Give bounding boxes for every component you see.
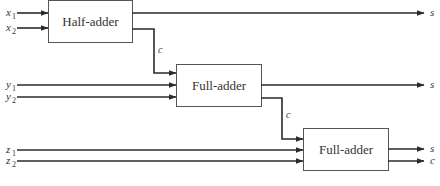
- full-adder-2-carry-output: c: [388, 154, 435, 166]
- full-adder-2-block: Full-adder: [304, 129, 389, 171]
- svg-text:2: 2: [12, 96, 16, 105]
- full-adder-2-label: Full-adder: [319, 142, 374, 157]
- carry-ha-to-fa1: c: [132, 29, 176, 73]
- input-x2: x 2: [5, 21, 48, 36]
- svg-text:s: s: [430, 6, 434, 18]
- svg-text:2: 2: [12, 27, 16, 36]
- svg-text:c: c: [158, 44, 163, 55]
- svg-text:y: y: [5, 90, 11, 102]
- svg-text:x: x: [5, 21, 11, 33]
- full-adder-1-label: Full-adder: [192, 78, 247, 93]
- svg-text:2: 2: [12, 160, 16, 169]
- half-adder-sum-output: s: [132, 6, 434, 18]
- input-y2: y 2: [5, 90, 176, 105]
- svg-text:z: z: [5, 154, 11, 166]
- svg-text:s: s: [430, 142, 434, 154]
- svg-text:y: y: [5, 78, 11, 90]
- svg-text:1: 1: [12, 149, 16, 158]
- svg-text:1: 1: [12, 84, 16, 93]
- input-y1: y 1: [5, 78, 176, 93]
- half-adder-block: Half-adder: [49, 1, 133, 43]
- half-adder-label: Half-adder: [62, 14, 119, 29]
- svg-text:c: c: [286, 109, 291, 120]
- full-adder-1-block: Full-adder: [177, 65, 262, 107]
- full-adder-1-sum-output: s: [261, 78, 434, 90]
- carry-fa1-to-fa2: c: [261, 98, 303, 139]
- full-adder-2-sum-output: s: [388, 142, 434, 154]
- svg-text:c: c: [430, 154, 435, 166]
- input-x1: x 1: [5, 6, 48, 21]
- svg-text:s: s: [430, 78, 434, 90]
- adder-chain-diagram: Half-adder x 1 x 2 s c Full-adder y 1 y …: [0, 0, 440, 186]
- svg-text:1: 1: [12, 12, 16, 21]
- input-z1: z 1: [5, 143, 303, 158]
- svg-text:x: x: [5, 6, 11, 18]
- input-z2: z 2: [5, 154, 303, 169]
